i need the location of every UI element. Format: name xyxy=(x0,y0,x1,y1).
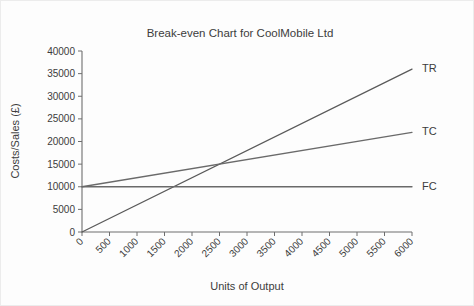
y-tick-label: 35000 xyxy=(47,68,75,79)
chart-title: Break-even Chart for CoolMobile Ltd xyxy=(147,27,334,39)
x-tick-label: 500 xyxy=(93,235,113,255)
x-tick-label: 6000 xyxy=(392,235,416,259)
x-axis: 0500100015002000250030003500400045005000… xyxy=(74,232,416,259)
y-tick-label: 15000 xyxy=(47,159,75,170)
x-tick-label: 0 xyxy=(74,235,86,247)
x-tick-label: 2000 xyxy=(172,235,196,259)
break-even-chart-figure: Break-even Chart for CoolMobile Ltd 0500… xyxy=(0,0,474,306)
series-label-tr: TR xyxy=(422,62,437,74)
y-tick-label: 25000 xyxy=(47,113,75,124)
y-tick-label: 20000 xyxy=(47,136,75,147)
chart-canvas: Break-even Chart for CoolMobile Ltd 0500… xyxy=(0,0,474,306)
x-tick-label: 2500 xyxy=(199,235,223,259)
x-tick-label: 3500 xyxy=(254,235,278,259)
series-line-tc xyxy=(82,132,412,186)
series-lines xyxy=(82,69,412,232)
series-line-tr xyxy=(82,69,412,232)
y-axis: 0500010000150002000025000300003500040000 xyxy=(47,46,82,238)
x-axis-title: Units of Output xyxy=(210,280,283,292)
y-tick-label: 0 xyxy=(69,227,75,238)
series-label-fc: FC xyxy=(422,180,437,192)
y-axis-title: Costs/Sales (£) xyxy=(9,103,21,178)
chart-title-group: Break-even Chart for CoolMobile Ltd xyxy=(147,27,334,39)
x-tick-label: 4500 xyxy=(309,235,333,259)
x-tick-label: 1000 xyxy=(117,235,141,259)
x-tick-label: 3000 xyxy=(227,235,251,259)
x-tick-label: 4000 xyxy=(282,235,306,259)
x-tick-label: 1500 xyxy=(144,235,168,259)
x-tick-label: 5000 xyxy=(337,235,361,259)
y-tick-label: 10000 xyxy=(47,181,75,192)
y-tick-label: 30000 xyxy=(47,91,75,102)
series-label-tc: TC xyxy=(422,125,437,137)
x-tick-label: 5500 xyxy=(364,235,388,259)
y-tick-label: 40000 xyxy=(47,46,75,57)
y-tick-label: 5000 xyxy=(53,204,76,215)
series-labels: TRTCFC xyxy=(422,62,437,192)
